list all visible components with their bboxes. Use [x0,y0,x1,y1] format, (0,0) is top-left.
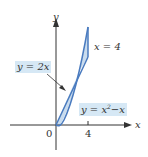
parabola-label-suffix: −x [111,104,125,115]
parabola-label: y = x2−x [79,103,127,116]
origin-label: 0 [46,129,52,139]
line-label: y = 2x [15,61,51,73]
pointer-arrow [47,74,63,88]
parabola-label-prefix: y = x [81,104,107,115]
x-axis-label: x [135,120,141,130]
x-axis-arrow-icon [124,122,132,128]
y-axis-label: y [53,12,59,22]
graph-canvas [0,0,148,157]
x-tick-label-4: 4 [85,129,91,139]
vertical-line-label: x = 4 [94,42,121,52]
